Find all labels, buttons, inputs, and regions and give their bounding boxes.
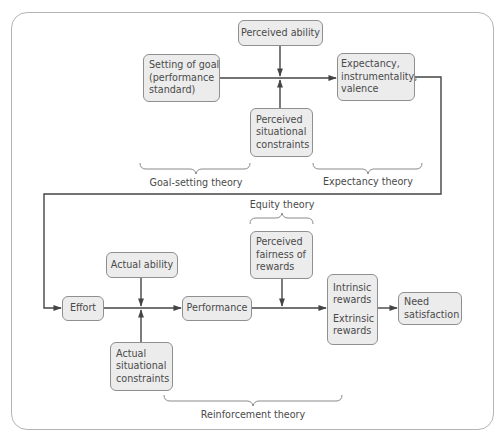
node-effort: Effort: [62, 296, 104, 321]
node-actual-ability: Actual ability: [106, 252, 178, 278]
node-text: Perceived ability: [241, 27, 320, 40]
label-equity-theory: Equity theory: [250, 199, 315, 210]
node-need-satisfaction: Need satisfaction: [398, 292, 462, 325]
node-text: (performance: [149, 72, 214, 85]
node-performance: Performance: [182, 296, 252, 321]
edge-expectancy-to-effort: [44, 77, 441, 308]
label-goal-setting-theory: Goal-setting theory: [150, 177, 243, 188]
node-text: Perceived: [256, 236, 307, 249]
node-text: Actual: [116, 348, 167, 361]
node-text: standard): [149, 84, 214, 97]
brace-goal-setting: [140, 163, 250, 174]
node-text: constraints: [256, 139, 307, 152]
connector-layer: [0, 0, 503, 442]
node-text: rewards: [256, 261, 307, 274]
node-setting-of-goal: Setting of goal (performance standard): [143, 54, 220, 102]
brace-expectancy: [313, 163, 422, 174]
node-expectancy-instrumentality-valence: Expectancy, instrumentality, valence: [337, 53, 415, 101]
brace-reinforcement: [164, 395, 342, 406]
node-perceived-situational-constraints: Perceived situational constraints: [250, 108, 313, 157]
node-perceived-fairness-of-rewards: Perceived fairness of rewards: [250, 231, 313, 279]
node-text: Need: [404, 296, 456, 309]
brace-equity: [250, 213, 313, 224]
node-text: Setting of goal: [149, 59, 214, 72]
intrinsic-rewards-text: rewards: [333, 294, 372, 307]
intrinsic-rewards-text: Intrinsic: [333, 282, 372, 295]
node-text: constraints: [116, 373, 167, 386]
extrinsic-rewards-text: rewards: [333, 325, 372, 338]
node-text: Expectancy,: [341, 58, 409, 71]
extrinsic-rewards-text: Extrinsic: [333, 313, 372, 326]
node-text: Performance: [187, 302, 248, 315]
node-text: situational: [256, 126, 307, 139]
label-expectancy-theory: Expectancy theory: [323, 176, 413, 187]
node-text: situational: [116, 360, 167, 373]
label-reinforcement-theory: Reinforcement theory: [201, 409, 305, 420]
node-text: satisfaction: [404, 309, 456, 322]
node-rewards: Intrinsic rewards Extrinsic rewards: [327, 274, 378, 345]
node-text: instrumentality,: [341, 71, 409, 84]
node-text: Perceived: [256, 114, 307, 127]
node-text: Effort: [70, 302, 96, 315]
node-actual-situational-constraints: Actual situational constraints: [110, 342, 173, 391]
node-text: Actual ability: [111, 259, 174, 272]
node-text: valence: [341, 83, 409, 96]
node-text: fairness of: [256, 249, 307, 262]
node-perceived-ability: Perceived ability: [238, 20, 323, 46]
